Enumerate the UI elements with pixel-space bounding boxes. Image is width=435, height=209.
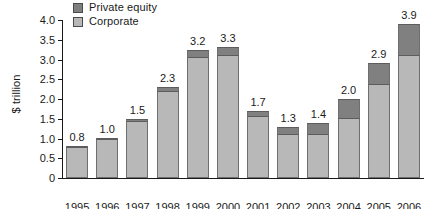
- stacked-bar[interactable]: [277, 127, 299, 178]
- legend-item-private-equity: Private equity: [73, 1, 157, 14]
- stacked-bar[interactable]: [66, 146, 88, 178]
- bar-group: 2.02004: [338, 20, 360, 178]
- stacked-bar[interactable]: [247, 111, 269, 178]
- x-axis-tick-label: 1999: [186, 202, 210, 209]
- x-axis-tick-label: 2005: [367, 202, 391, 209]
- bar-segment-private-equity: [187, 50, 209, 58]
- bar-value-label: 3.3: [220, 33, 235, 44]
- x-axis-tick-label: 2003: [306, 202, 330, 209]
- bar-group: 1.42003: [307, 20, 329, 178]
- y-axis-tick: [58, 99, 62, 100]
- stacked-bar[interactable]: [157, 87, 179, 178]
- y-axis-tick-label: 3.5: [40, 35, 55, 46]
- bar-value-label: 3.2: [190, 36, 205, 47]
- x-axis-tick-label: 2006: [397, 202, 421, 209]
- bar-group: 3.32000: [217, 20, 239, 178]
- y-axis-tick-label: 2.0: [40, 94, 55, 105]
- bar-value-label: 1.0: [100, 124, 115, 135]
- y-axis-tick-label: 4.0: [40, 15, 55, 26]
- stacked-bar[interactable]: [398, 24, 420, 178]
- chart-figure: Private equity Corporate $ trillion 00.5…: [0, 0, 435, 209]
- x-axis-line: [62, 178, 424, 179]
- bar-segment-corporate: [338, 119, 360, 178]
- x-axis-tick-label: 1998: [155, 202, 179, 209]
- y-axis-tick-label: 0: [49, 173, 55, 184]
- bar-value-label: 0.8: [69, 132, 84, 143]
- bar-segment-private-equity: [277, 127, 299, 135]
- bar-group: 1.01996: [96, 20, 118, 178]
- bar-segment-corporate: [307, 135, 329, 178]
- y-axis-tick: [58, 158, 62, 159]
- bar-group: 2.31998: [157, 20, 179, 178]
- bar-segment-corporate: [157, 92, 179, 178]
- bar-segment-private-equity: [338, 99, 360, 119]
- x-axis-tick-label: 1996: [95, 202, 119, 209]
- bar-group: 1.32002: [277, 20, 299, 178]
- x-axis-tick-label: 1995: [65, 202, 89, 209]
- bar-value-label: 1.4: [311, 109, 326, 120]
- x-axis-tick-label: 1997: [125, 202, 149, 209]
- y-axis-tick-label: 0.5: [40, 153, 55, 164]
- bar-segment-corporate: [187, 58, 209, 178]
- x-axis-tick-label: 2000: [216, 202, 240, 209]
- bar-segment-corporate: [277, 135, 299, 178]
- bar-segment-private-equity: [368, 63, 390, 85]
- bar-segment-corporate: [398, 56, 420, 178]
- bar-group: 2.92005: [368, 20, 390, 178]
- y-axis-tick: [58, 20, 62, 21]
- y-axis-tick-label: 2.5: [40, 74, 55, 85]
- y-axis-tick: [58, 60, 62, 61]
- bar-value-label: 1.5: [130, 105, 145, 116]
- bar-value-label: 2.3: [160, 73, 175, 84]
- stacked-bar[interactable]: [126, 119, 148, 178]
- bar-group: 1.72001: [247, 20, 269, 178]
- stacked-bar[interactable]: [96, 138, 118, 178]
- bar-segment-private-equity: [217, 47, 239, 56]
- y-axis-title: $ trillion: [10, 49, 22, 139]
- legend-label-private-equity: Private equity: [89, 2, 157, 13]
- y-axis-tick-label: 3.0: [40, 55, 55, 66]
- x-axis-tick-label: 2004: [336, 202, 360, 209]
- plot-area: 00.51.01.52.02.53.03.54.00.819951.019961…: [62, 20, 424, 178]
- y-axis-tick: [58, 139, 62, 140]
- bar-segment-corporate: [96, 140, 118, 178]
- y-axis-tick: [58, 40, 62, 41]
- bar-group: 0.81995: [66, 20, 88, 178]
- bar-segment-corporate: [217, 56, 239, 178]
- bar-segment-corporate: [368, 85, 390, 178]
- stacked-bar[interactable]: [307, 123, 329, 178]
- bar-group: 3.92006: [398, 20, 420, 178]
- y-axis-tick-label: 1.5: [40, 114, 55, 125]
- bar-value-label: 1.3: [281, 113, 296, 124]
- stacked-bar[interactable]: [338, 99, 360, 178]
- bar-group: 1.51997: [126, 20, 148, 178]
- bar-group: 3.21999: [187, 20, 209, 178]
- bar-segment-corporate: [247, 117, 269, 178]
- legend-swatch-private-equity-icon: [73, 3, 83, 13]
- bar-segment-private-equity: [307, 123, 329, 135]
- y-axis-tick: [58, 178, 62, 179]
- stacked-bar[interactable]: [217, 47, 239, 178]
- bar-value-label: 1.7: [250, 97, 265, 108]
- y-axis-tick-label: 1.0: [40, 134, 55, 145]
- x-axis-tick-label: 2001: [246, 202, 270, 209]
- y-axis-tick: [58, 119, 62, 120]
- bar-segment-corporate: [66, 148, 88, 178]
- stacked-bar[interactable]: [368, 63, 390, 178]
- bar-value-label: 2.0: [341, 85, 356, 96]
- x-axis-tick-label: 2002: [276, 202, 300, 209]
- bar-value-label: 3.9: [401, 10, 416, 21]
- stacked-bar[interactable]: [187, 50, 209, 178]
- bar-segment-corporate: [126, 122, 148, 178]
- bar-value-label: 2.9: [371, 49, 386, 60]
- y-axis-tick: [58, 79, 62, 80]
- bar-segment-private-equity: [398, 24, 420, 56]
